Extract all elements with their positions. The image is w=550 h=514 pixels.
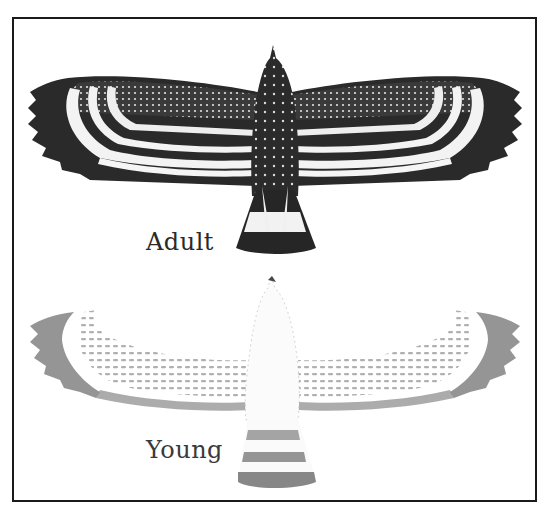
young-label: Young	[146, 436, 223, 464]
young-right-wing	[298, 304, 520, 410]
young-tail	[238, 418, 316, 488]
adult-left-wing	[28, 76, 258, 186]
adult-tail	[236, 186, 316, 254]
young-bird	[30, 276, 520, 488]
adult-right-wing	[292, 76, 522, 186]
bird-illustrations	[0, 0, 550, 514]
adult-label: Adult	[146, 228, 214, 256]
young-left-wing	[30, 304, 252, 410]
young-body	[245, 276, 299, 420]
adult-body	[251, 45, 299, 196]
adult-bird	[28, 45, 522, 254]
